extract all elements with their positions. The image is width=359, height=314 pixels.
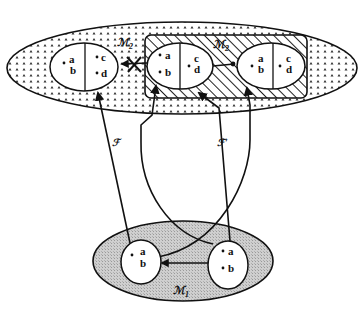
label-f-prime: ℱ′ xyxy=(217,137,228,148)
arrow-f-prime-2 xyxy=(199,93,230,241)
elem-a: a xyxy=(228,245,234,257)
diagram-canvas: a b c d a b c d a b c d ℳ2 ℳ2 xyxy=(0,0,359,314)
elem-d: d xyxy=(101,67,107,79)
hatched-middle-object: a b c d xyxy=(147,43,213,89)
hatched-right-object: a b c d xyxy=(237,43,305,89)
diagram-svg: a b c d a b c d a b c d ℳ2 ℳ2 xyxy=(0,0,359,314)
elem-b: b xyxy=(228,262,234,274)
elem-b: b xyxy=(165,66,171,78)
bottom-right-object: a b xyxy=(208,241,248,289)
elem-c: c xyxy=(101,51,106,63)
arrow-f-1 xyxy=(98,93,130,243)
label-f: ℱ xyxy=(112,137,122,148)
elem-d: d xyxy=(194,63,200,75)
elem-b: b xyxy=(140,257,146,269)
elem-d: d xyxy=(286,63,292,75)
elem-b: b xyxy=(258,63,264,75)
top-left-object: a b c d xyxy=(50,43,118,91)
elem-a: a xyxy=(140,245,146,257)
elem-a: a xyxy=(165,49,171,61)
bottom-left-object: a b xyxy=(121,240,161,284)
elem-b: b xyxy=(70,64,76,76)
